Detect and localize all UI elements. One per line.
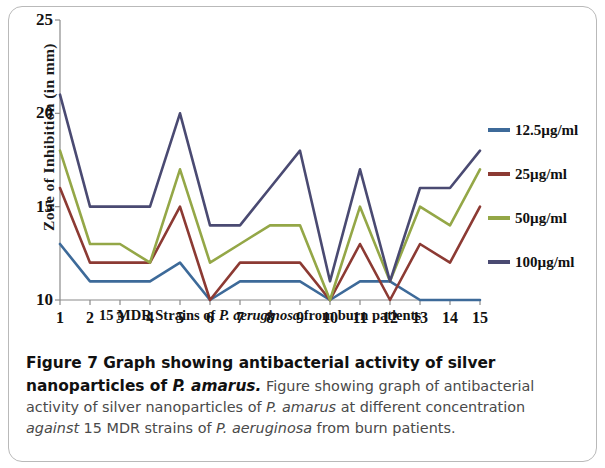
x-axis-title: 15 MDR Strains of P. aeruginosa from bur… xyxy=(40,307,480,324)
legend-label: 25µg/ml xyxy=(515,166,567,183)
caption-body-2: at different concentration xyxy=(336,399,525,415)
series-line-25gml xyxy=(60,188,480,300)
caption-body-3: 15 MDR strains of xyxy=(79,420,216,436)
x-axis-title-part2: from burn patients xyxy=(300,307,421,323)
x-axis-title-part1: 15 MDR Strains of xyxy=(99,307,219,323)
legend-color-swatch xyxy=(488,172,510,176)
legend-item[interactable]: 12.5µg/ml xyxy=(488,108,603,152)
y-tick-label: 15 xyxy=(36,197,53,217)
legend-color-swatch xyxy=(488,216,510,220)
series-line-50gml xyxy=(60,151,480,300)
series-line-12.5gml xyxy=(60,244,480,300)
line-chart-svg xyxy=(60,20,480,300)
caption-species-2: P. aeruginosa xyxy=(216,420,312,436)
chart-area: Zone of Inhibition (in mm) 10152025 1234… xyxy=(0,0,605,335)
chart-legend: 12.5µg/ml25µg/ml50µg/ml100µg/ml xyxy=(488,108,603,284)
figure-caption: Figure 7 Graph showing antibacterial act… xyxy=(26,352,582,440)
caption-against: against xyxy=(26,420,79,436)
legend-item[interactable]: 50µg/ml xyxy=(488,196,603,240)
plot-region: 10152025 123456789101112131415 xyxy=(60,20,480,300)
caption-body-4: from burn patients. xyxy=(312,420,456,436)
legend-label: 100µg/ml xyxy=(515,254,574,271)
figure-container: Zone of Inhibition (in mm) 10152025 1234… xyxy=(0,0,605,468)
caption-bold-species: P. amarus. xyxy=(172,377,261,395)
series-line-100gml xyxy=(60,95,480,282)
caption-species-1: P. amarus xyxy=(266,399,336,415)
legend-item[interactable]: 100µg/ml xyxy=(488,240,603,284)
y-tick-label: 25 xyxy=(36,10,53,30)
legend-color-swatch xyxy=(488,260,510,264)
legend-color-swatch xyxy=(488,128,510,132)
legend-label: 50µg/ml xyxy=(515,210,567,227)
y-axis-title: Zone of Inhibition (in mm) xyxy=(40,12,58,262)
legend-item[interactable]: 25µg/ml xyxy=(488,152,603,196)
y-tick-label: 20 xyxy=(36,103,53,123)
x-axis-title-species: P. aeruginosa xyxy=(219,307,300,323)
legend-label: 12.5µg/ml xyxy=(515,122,578,139)
